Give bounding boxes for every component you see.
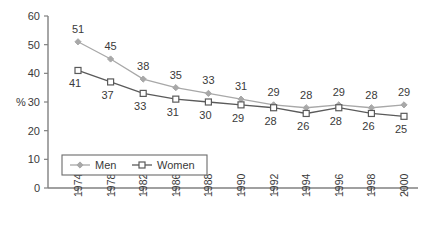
x-tick-label: 1982 — [137, 173, 149, 197]
y-axis-title: % — [16, 96, 26, 108]
data-point-label: 29 — [333, 86, 345, 98]
x-tick-label: 1994 — [300, 173, 312, 197]
x-tick-label: 1996 — [333, 173, 345, 197]
data-point-marker — [75, 67, 81, 73]
data-point-marker — [401, 102, 407, 108]
line-chart: 0102030405060%19741978198219861988199019… — [0, 0, 439, 227]
data-point-label: 41 — [69, 77, 81, 89]
data-point-label: 28 — [365, 89, 377, 101]
data-point-label: 30 — [199, 109, 211, 121]
chart-canvas: 0102030405060%19741978198219861988199019… — [0, 0, 439, 227]
data-point-marker — [108, 79, 114, 85]
x-tick-label: 1978 — [105, 173, 117, 197]
data-point-label: 29 — [267, 86, 279, 98]
series-women: 4137333130292826282625 — [69, 67, 407, 135]
data-point-marker — [205, 99, 211, 105]
data-point-marker — [336, 105, 342, 111]
data-point-label: 28 — [264, 115, 276, 127]
x-axis-ticks: 1974197819821986198819901992199419961998… — [72, 173, 410, 197]
y-tick-label: 50 — [28, 39, 40, 51]
data-point-label: 38 — [137, 60, 149, 72]
legend: MenWomen — [62, 155, 207, 175]
data-point-marker — [173, 85, 179, 91]
data-point-label: 33 — [134, 100, 146, 112]
y-tick-label: 60 — [28, 10, 40, 22]
data-point-label: 35 — [170, 69, 182, 81]
data-point-marker — [205, 90, 211, 96]
data-point-label: 25 — [395, 123, 407, 135]
y-tick-label: 30 — [28, 96, 40, 108]
data-point-label: 37 — [101, 89, 113, 101]
y-tick-label: 10 — [28, 153, 40, 165]
series-men: 5145383533312928292829 — [72, 23, 410, 111]
x-tick-label: 1988 — [202, 173, 214, 197]
data-point-label: 29 — [232, 112, 244, 124]
data-point-marker — [303, 110, 309, 116]
data-point-label: 45 — [104, 40, 116, 52]
x-tick-label: 1974 — [72, 173, 84, 197]
x-tick-label: 1992 — [268, 173, 280, 197]
data-point-marker — [108, 56, 114, 62]
data-point-marker — [238, 102, 244, 108]
data-point-label: 28 — [330, 115, 342, 127]
x-tick-label: 1998 — [365, 173, 377, 197]
data-point-marker — [271, 105, 277, 111]
data-point-label: 31 — [167, 106, 179, 118]
legend-item-label: Men — [95, 159, 116, 171]
y-tick-label: 20 — [28, 125, 40, 137]
series-line — [78, 70, 404, 116]
data-point-label: 26 — [362, 120, 374, 132]
legend-item-label: Women — [157, 159, 195, 171]
x-tick-label: 1990 — [235, 173, 247, 197]
data-point-label: 51 — [72, 23, 84, 35]
data-point-label: 26 — [297, 120, 309, 132]
data-point-marker — [173, 96, 179, 102]
data-point-marker — [401, 113, 407, 119]
data-point-label: 31 — [235, 80, 247, 92]
y-tick-label: 40 — [28, 67, 40, 79]
data-point-label: 28 — [300, 89, 312, 101]
data-point-marker — [140, 76, 146, 82]
y-axis-ticks: 0102030405060 — [28, 10, 48, 194]
data-point-label: 33 — [202, 74, 214, 86]
square-marker-icon — [139, 162, 145, 168]
data-point-label: 29 — [398, 86, 410, 98]
x-tick-label: 2000 — [398, 173, 410, 197]
data-point-marker — [368, 110, 374, 116]
data-point-marker — [75, 39, 81, 45]
data-point-marker — [140, 90, 146, 96]
y-tick-label: 0 — [34, 182, 40, 194]
x-tick-label: 1986 — [170, 173, 182, 197]
